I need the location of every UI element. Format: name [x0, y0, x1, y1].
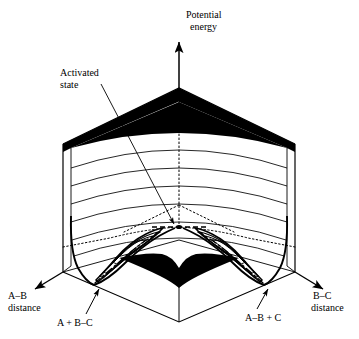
activated-state-label: Activated state	[60, 67, 101, 90]
product-well-leader	[257, 289, 268, 309]
b-c-distance-label-line2: distance	[311, 302, 344, 313]
b-c-distance-label-line1: B–C	[313, 290, 332, 301]
a-b-distance-label: A–B distance	[8, 290, 41, 313]
axis-b-c-distance	[295, 272, 323, 289]
reactant-well-label: A + B–C	[57, 317, 93, 328]
saddle-point-dot	[176, 225, 182, 229]
potential-energy-surface-figure: Potential energy Activated state A–B dis…	[0, 0, 359, 339]
potential-energy-label-line1: Potential	[186, 9, 222, 20]
reactant-well-leader	[86, 289, 99, 314]
activated-state-label-line2: state	[60, 79, 79, 90]
a-b-distance-label-line1: A–B	[8, 290, 27, 301]
floor-projection-dotted	[63, 227, 295, 247]
potential-energy-axis-label: Potential energy	[186, 9, 224, 32]
diagram-canvas: Potential energy Activated state A–B dis…	[8, 9, 344, 328]
axis-a-b-distance	[35, 272, 63, 289]
product-well-label: A–B + C	[245, 312, 282, 323]
potential-energy-label-line2: energy	[190, 21, 217, 32]
b-c-distance-label: B–C distance	[311, 290, 344, 313]
front-ridge-black	[119, 254, 239, 289]
back-corner-right-dotted	[179, 205, 234, 232]
a-b-distance-label-line2: distance	[8, 302, 41, 313]
activated-state-label-line1: Activated	[60, 67, 99, 78]
